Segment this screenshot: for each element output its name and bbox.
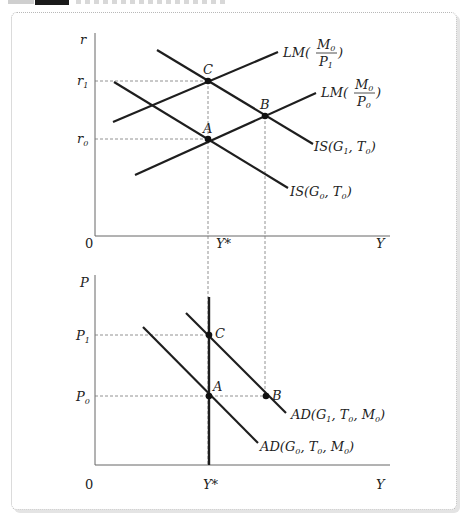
y-axis-label-top: Y [376,236,386,251]
lm-p1-curve [113,52,278,122]
r0-label: r0 [77,131,88,148]
p1-label: P1 [75,328,90,345]
svg-text:P1: P1 [318,54,333,70]
r1-label: r1 [77,73,88,90]
ad-g0-label: AD(G0, T0, M0) [259,439,354,456]
label-a-bottom: A [212,379,222,394]
origin-bottom: 0 [85,477,93,492]
point-b-bottom [263,393,270,400]
lm-p0-label: LM( M0 P0 ) [320,77,381,110]
p-axis-label: P [79,275,89,290]
lm-p0-curve [135,93,316,175]
ad-g1-curve [186,313,286,413]
point-b-top [262,113,269,120]
label-a-top: A [202,121,212,136]
svg-text:LM(: LM( [282,45,311,60]
lm-p1-label: LM( M0 P1 ) [282,37,343,70]
economics-diagram: C A B r Y 0 Y* r1 r0 LM( M0 P1 ) LM( M0 … [0,0,470,518]
ystar-label-top: Y* [216,236,232,251]
label-c-bottom: C [215,326,225,341]
point-c-bottom [206,332,213,339]
label-b-bottom: B [271,388,282,403]
origin-top: 0 [85,236,93,251]
svg-text:M0: M0 [354,77,373,93]
ad-g0-curve [143,327,258,443]
ystar-label-bottom: Y* [203,477,219,492]
svg-text:): ) [337,45,343,60]
svg-text:P0: P0 [356,94,371,110]
point-c-top [205,78,212,85]
svg-text:LM(: LM( [320,85,349,100]
ad-g1-label: AD(G1, T0, M0) [290,407,385,424]
label-b-top: B [259,97,270,112]
adas-panel: C A B P Y 0 Y* P1 P0 AD(G1, T0, M0) AD(G… [75,275,390,492]
svg-text:): ) [375,85,381,100]
svg-text:M0: M0 [316,37,335,53]
point-a-top [205,136,212,143]
r-axis-label: r [80,32,87,47]
is-g1-label: IS(G1, T0) [313,139,376,156]
y-axis-label-bottom: Y [376,477,386,492]
is-g0-label: IS(G0, T0) [289,184,352,201]
point-a-bottom [206,393,213,400]
islm-panel: C A B r Y 0 Y* r1 r0 LM( M0 P1 ) LM( M0 … [77,32,390,465]
label-c-top: C [203,62,213,77]
p0-label: P0 [75,389,90,406]
